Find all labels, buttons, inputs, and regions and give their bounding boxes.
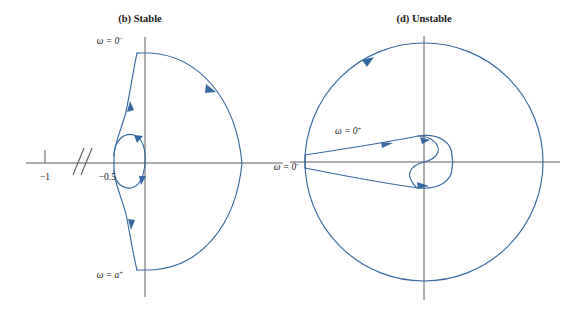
nyquist-figure: (b) Stable ω = 0− ω = a+ −1 −0.5 bbox=[0, 0, 574, 315]
panel-d-unstable: (d) Unstable ω = 0+ ω = 0− bbox=[274, 13, 560, 300]
panel-b-outer-contour bbox=[137, 53, 242, 270]
panel-d-omega-0-minus-label: ω = 0− bbox=[274, 161, 301, 173]
panel-b-tick-label-minus-half: −0.5 bbox=[99, 172, 116, 182]
panel-b-omega-bottom-main: ω = a bbox=[97, 270, 120, 280]
panel-b-tick-label-minus-one: −1 bbox=[40, 172, 50, 182]
panel-b-omega-bottom-label: ω = a+ bbox=[97, 269, 124, 281]
panel-d-omega-0-plus-label: ω = 0+ bbox=[335, 125, 362, 137]
panel-b-omega-top-label: ω = 0− bbox=[97, 35, 124, 47]
panel-b-omega-top-sup: − bbox=[119, 35, 123, 42]
panel-b-stable: (b) Stable ω = 0− ω = a+ −1 −0.5 bbox=[26, 13, 283, 297]
panel-d-omega-minus-sup: − bbox=[296, 161, 300, 168]
panel-d-omega-plus-main: ω = 0 bbox=[335, 126, 358, 136]
panel-d-title: (d) Unstable bbox=[396, 13, 451, 25]
panel-b-omega-bottom-sup: + bbox=[119, 269, 123, 276]
panel-d-arrow-teardrop-upper bbox=[381, 142, 393, 148]
panel-d-omega-minus-main: ω = 0 bbox=[274, 162, 297, 172]
panel-b-title: (b) Stable bbox=[118, 13, 162, 25]
panel-b-omega-top-main: ω = 0 bbox=[97, 36, 120, 46]
panel-d-omega-plus-sup: + bbox=[358, 125, 362, 132]
panel-d-teardrop-lower bbox=[305, 168, 452, 188]
panel-b-locus-upper bbox=[114, 53, 137, 156]
panel-d-arrow-circle-top bbox=[362, 57, 374, 67]
